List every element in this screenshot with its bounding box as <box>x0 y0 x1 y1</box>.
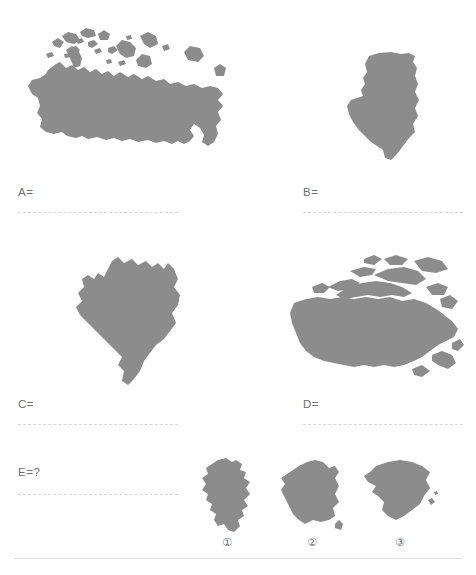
prompt-label-e: E=? <box>18 466 40 478</box>
canada-silhouette <box>276 253 466 393</box>
option-number-3[interactable]: ③ <box>362 536 438 549</box>
map-spain[interactable] <box>362 458 438 528</box>
answer-line-d[interactable] <box>303 424 463 425</box>
answer-label-a: A= <box>18 186 33 198</box>
algeria-silhouette <box>345 50 423 165</box>
map-brazil <box>60 253 200 393</box>
brazil-silhouette <box>60 253 200 393</box>
option-number-2[interactable]: ② <box>279 536 345 549</box>
answer-line-c[interactable] <box>18 424 178 425</box>
map-germany[interactable] <box>198 458 256 534</box>
answer-line-e[interactable] <box>18 494 178 495</box>
map-russia <box>18 24 230 174</box>
worksheet-sheet: A= B= C= <box>0 0 476 575</box>
map-france[interactable] <box>279 458 345 534</box>
answer-line-b[interactable] <box>303 212 463 213</box>
answer-label-c: C= <box>18 398 34 410</box>
answer-line-a[interactable] <box>18 212 178 213</box>
map-canada <box>276 253 466 393</box>
option-number-1[interactable]: ① <box>198 536 256 549</box>
answer-label-d: D= <box>303 398 319 410</box>
bottom-divider <box>14 558 462 559</box>
map-algeria <box>345 50 423 165</box>
spain-silhouette <box>362 458 438 528</box>
answer-label-b: B= <box>303 186 318 198</box>
france-silhouette <box>279 458 345 534</box>
germany-silhouette <box>198 458 256 534</box>
russia-silhouette <box>18 24 230 174</box>
